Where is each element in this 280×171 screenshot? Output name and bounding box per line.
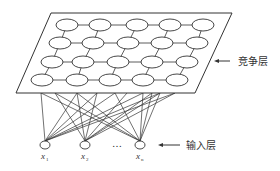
competitive-node (192, 19, 214, 31)
competitive-node (117, 37, 139, 49)
competitive-node (166, 74, 188, 86)
competitive-node (159, 19, 181, 31)
competitive-node (49, 37, 71, 49)
arrowhead-icon (158, 143, 163, 147)
connection-line (77, 93, 85, 141)
input-node (40, 141, 50, 149)
competitive-node (186, 37, 208, 49)
connection-line (41, 93, 45, 141)
input-node-label: x (80, 151, 85, 161)
input-node (80, 141, 90, 149)
connection-line (85, 93, 160, 141)
input-node (135, 141, 145, 149)
input-node-subscript: n (141, 157, 144, 162)
competitive-node (56, 19, 78, 31)
competitive-node (66, 74, 88, 86)
competitive-node (89, 19, 111, 31)
connection-line (45, 93, 97, 141)
input-connections (41, 93, 175, 141)
input-ellipsis: … (112, 138, 122, 149)
input-layer-nodes: x1x2xn (40, 141, 145, 162)
diagram-root: x1x2xn 竞争层 输入层 … (0, 0, 280, 171)
competitive-network-diagram: x1x2xn 竞争层 输入层 … (0, 0, 280, 171)
input-node-subscript: 2 (86, 157, 89, 162)
input-node-label: x (40, 151, 45, 161)
competitive-node (132, 74, 154, 86)
competitive-node (41, 56, 63, 68)
competitive-node (31, 74, 53, 86)
input-node-label: x (135, 151, 140, 161)
competitive-node (141, 56, 163, 68)
input-node-subscript: 1 (46, 157, 49, 162)
input-layer-label: 输入层 (186, 139, 216, 151)
competitive-node (126, 19, 148, 31)
competitive-node (151, 37, 173, 49)
competitive-layer-label: 竞争层 (238, 55, 268, 67)
connection-line (45, 93, 175, 141)
arrowhead-icon (214, 59, 219, 63)
connection-line (45, 93, 77, 141)
competitive-node (107, 56, 129, 68)
competitive-node (82, 37, 104, 49)
competitive-node (72, 56, 94, 68)
competitive-node (176, 56, 198, 68)
competitive-node (99, 74, 121, 86)
